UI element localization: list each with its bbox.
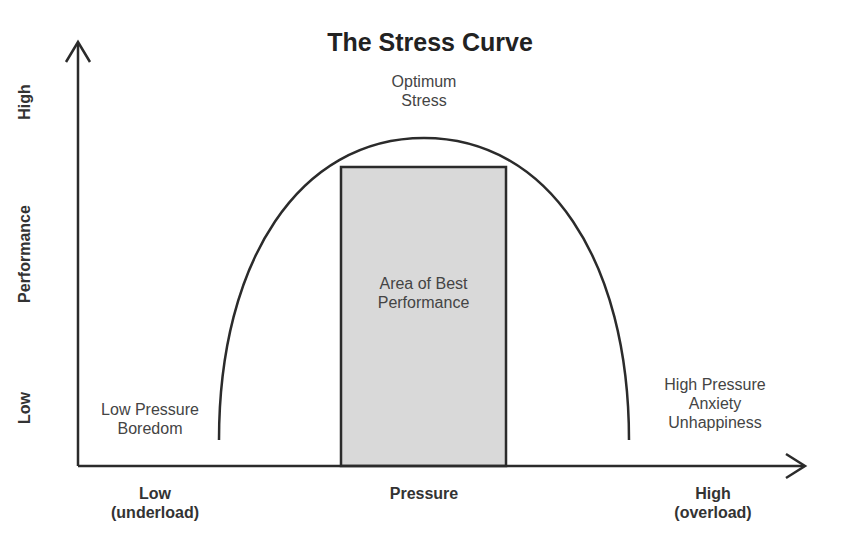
x-axis-high-line1: High [653,484,773,503]
high-pressure-line1: High Pressure [640,375,790,394]
y-axis-low-label: Low [16,378,36,438]
x-axis-high-line2: (overload) [653,503,773,522]
x-axis-low-line2: (underload) [95,503,215,522]
x-axis-high-label: High (overload) [653,484,773,522]
y-axis-high-label: High [16,62,36,142]
high-pressure-label: High Pressure Anxiety Unhappiness [640,375,790,433]
low-pressure-line1: Low Pressure [84,400,216,419]
low-pressure-label: Low Pressure Boredom [84,400,216,438]
y-axis-title: Performance [16,194,36,314]
low-pressure-line2: Boredom [84,419,216,438]
best-performance-line2: Performance [341,293,506,312]
best-performance-label: Area of Best Performance [341,274,506,312]
best-performance-zone [341,167,506,466]
x-axis-title: Pressure [364,484,484,503]
high-pressure-line2: Anxiety [640,394,790,413]
chart-title: The Stress Curve [300,27,560,57]
optimum-stress-label: Optimum Stress [354,72,494,110]
optimum-stress-line1: Optimum [354,72,494,91]
optimum-stress-line2: Stress [354,91,494,110]
x-axis-low-line1: Low [95,484,215,503]
x-axis-low-label: Low (underload) [95,484,215,522]
best-performance-line1: Area of Best [341,274,506,293]
high-pressure-line3: Unhappiness [640,413,790,432]
